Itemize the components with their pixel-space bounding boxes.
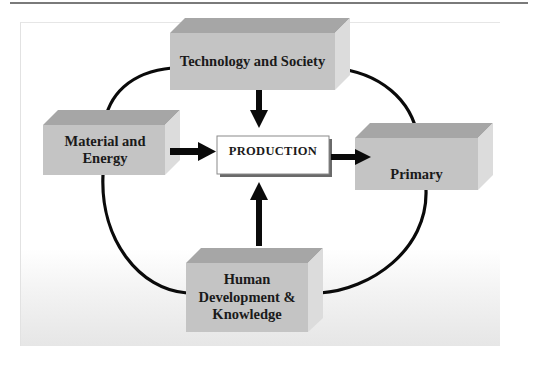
primary-label: Primary xyxy=(355,150,478,200)
arrow-technology-to-production xyxy=(250,90,268,128)
arrow-human-to-production xyxy=(250,182,268,246)
arc-primary-human xyxy=(320,190,426,293)
human-development-label: Human Development & Knowledge xyxy=(186,263,308,332)
arc-material-human xyxy=(103,175,187,293)
technology-society-label: Technology and Society xyxy=(170,33,335,90)
production-label: PRODUCTION xyxy=(217,136,329,166)
material-energy-label: Material and Energy xyxy=(50,125,160,175)
